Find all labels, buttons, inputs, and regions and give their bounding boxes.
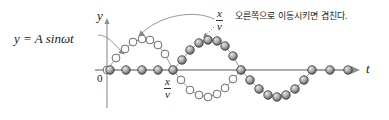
y-axis-arrowhead [104, 18, 109, 24]
fraction-x-over-v-top: x v [216, 8, 223, 32]
wave-node-filled [204, 36, 212, 44]
fraction-numerator: x [164, 76, 171, 88]
fraction-leader-dotted [206, 27, 214, 35]
wave-node-open [129, 38, 137, 46]
axes-group [95, 18, 352, 108]
wave-node-open [229, 75, 237, 83]
wave-node-filled [154, 66, 162, 74]
wave-node-filled [344, 66, 352, 74]
wave-node-filled [169, 66, 177, 74]
wave-node-filled [308, 66, 316, 74]
wave-node-filled [122, 66, 130, 74]
wave-node-filled [213, 37, 221, 45]
wave-node-open [146, 36, 154, 44]
wave-node-filled [229, 52, 237, 60]
wave-node-filled [246, 76, 254, 84]
wave-node-open [177, 76, 185, 84]
wave-node-filled [138, 66, 146, 74]
equation-label: y = A sinωt [14, 32, 74, 45]
wave-node-filled [178, 56, 186, 64]
annotation-korean-text: 오른쪽으로 이동시키면 겹친다. [235, 12, 348, 21]
fraction-leader-curve [142, 14, 214, 33]
wave-node-filled [264, 91, 272, 99]
wave-node-filled [300, 76, 308, 84]
wave-node-open [161, 50, 169, 58]
y-axis-label: y [97, 9, 103, 22]
wave-node-filled [255, 85, 263, 93]
fraction-denominator: v [164, 89, 171, 101]
x-axis-label: t [366, 62, 370, 75]
wave-node-open [186, 86, 194, 94]
fraction-x-over-v-axis: x v [164, 76, 171, 100]
fraction-numerator: x [216, 8, 223, 20]
wave-node-filled [221, 42, 229, 50]
origin-label: 0 [97, 73, 103, 84]
wave-node-open [112, 54, 120, 62]
equation-text: y = A sinωt [14, 31, 74, 46]
equation-leader-line [98, 35, 121, 51]
wave-node-filled [291, 85, 299, 93]
wave-node-filled [106, 66, 114, 74]
wave-node-open [154, 41, 162, 49]
wave-node-open [138, 35, 146, 43]
wave-nodes-group [103, 35, 352, 101]
wave-node-open [195, 91, 203, 99]
wave-diagram: y = A sinωt 0 y t x v 오른쪽으로 이동시키면 겹친다. x… [0, 0, 389, 120]
wave-node-open [213, 90, 221, 98]
wave-node-open [204, 93, 212, 101]
wave-node-open [221, 84, 229, 92]
wave-node-filled [326, 66, 334, 74]
wave-node-filled [186, 46, 194, 54]
wave-node-filled [273, 93, 281, 101]
wave-node-filled [195, 39, 203, 47]
wave-node-open [121, 45, 129, 53]
fraction-denominator: v [216, 21, 223, 33]
wave-node-filled [237, 66, 245, 74]
wave-node-filled [282, 91, 290, 99]
